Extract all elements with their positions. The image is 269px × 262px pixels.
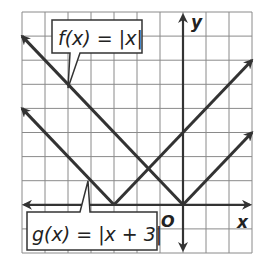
origin-label: O	[161, 212, 175, 231]
g-label: g(x) = |x + 3|	[32, 223, 162, 246]
graph: f(x) = |x|g(x) = |x + 3| yxO	[0, 0, 269, 262]
curve-f-right-branch	[183, 133, 252, 205]
f-label: f(x) = |x|	[58, 27, 143, 50]
axis-labels: yxO	[161, 12, 249, 232]
curve-f-left-branch	[22, 36, 183, 205]
x-axis-label: x	[236, 212, 249, 232]
y-axis-label: y	[191, 12, 203, 32]
